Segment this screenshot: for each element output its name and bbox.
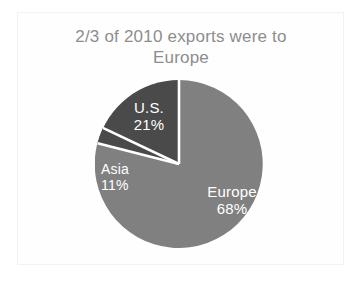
pie-chart-svg (95, 80, 263, 248)
pie-chart (95, 80, 263, 248)
chart-page: 2/3 of 2010 exports were to Europe Europ… (0, 0, 363, 283)
chart-title: 2/3 of 2010 exports were to Europe (32, 26, 330, 68)
